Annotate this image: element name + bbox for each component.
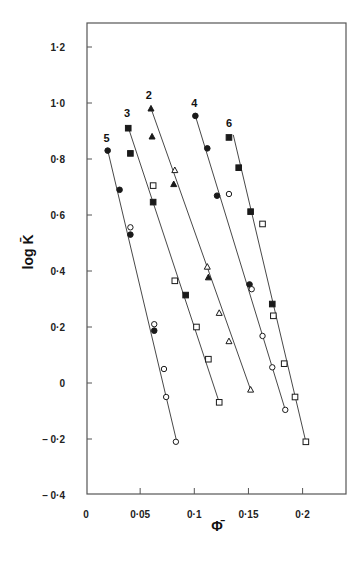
x-axis-ticks: 00·050·10·150·2 — [83, 488, 310, 520]
data-point-open-square — [216, 400, 222, 406]
series-label-4: 4 — [191, 97, 198, 109]
y-tick-label: – 0·2 — [42, 434, 65, 445]
data-point-open-circle — [173, 439, 178, 444]
x-tick-label: 0·05 — [130, 509, 150, 520]
data-point-filled-circle — [105, 148, 111, 154]
y-axis-title: log K̄ — [19, 235, 36, 270]
y-tick-label: 0·6 — [51, 210, 66, 221]
data-point-open-square — [172, 278, 178, 284]
data-point-filled-circle — [151, 328, 157, 334]
data-point-open-square — [150, 183, 156, 189]
y-tick-label: 0·2 — [51, 322, 66, 333]
data-point-filled-square — [269, 301, 275, 307]
data-point-open-square — [292, 394, 298, 400]
data-point-filled-circle — [193, 113, 199, 119]
data-point-filled-square — [183, 292, 189, 298]
data-point-filled-triangle — [148, 105, 154, 111]
data-point-open-triangle — [216, 310, 222, 316]
x-tick-label: 0·2 — [295, 509, 310, 520]
data-point-filled-square — [226, 135, 232, 141]
data-point-open-circle — [249, 287, 254, 292]
y-tick-label: 0·4 — [51, 266, 66, 277]
y-tick-label: 0 — [59, 378, 65, 389]
x-axis-title: Φ̄ — [211, 518, 225, 534]
data-point-filled-square — [125, 125, 131, 131]
data-point-open-circle — [270, 365, 275, 370]
data-point-filled-square — [150, 199, 156, 205]
data-point-open-circle — [163, 394, 168, 399]
data-point-open-triangle — [248, 387, 254, 393]
data-point-filled-circle — [214, 193, 220, 199]
series-label-2: 2 — [146, 89, 152, 101]
x-tick-label: 0·1 — [187, 509, 202, 520]
data-point-open-square — [271, 313, 277, 319]
data-point-open-circle — [161, 366, 166, 371]
series-labels: 53246 — [104, 89, 233, 144]
plot-frame — [87, 23, 346, 494]
data-point-open-circle — [226, 191, 231, 196]
series-label-3: 3 — [124, 107, 130, 119]
series-label-6: 6 — [226, 117, 232, 129]
data-point-open-square — [260, 221, 266, 227]
fit-lines — [108, 108, 306, 442]
data-point-filled-square — [128, 151, 134, 157]
data-point-open-triangle — [204, 264, 210, 270]
data-points — [105, 105, 309, 444]
series-label-5: 5 — [104, 132, 110, 144]
y-tick-label: 0·8 — [51, 154, 66, 165]
data-point-open-circle — [283, 407, 288, 412]
y-tick-label: 1·0 — [51, 98, 66, 109]
y-axis-ticks: 1·21·00·80·60·40·20– 0·2– 0·4 — [42, 42, 92, 501]
y-tick-label: 1·2 — [51, 42, 66, 53]
data-point-open-triangle — [226, 338, 232, 344]
data-point-open-square — [303, 439, 309, 445]
data-point-filled-circle — [128, 232, 134, 238]
data-point-filled-circle — [204, 146, 210, 152]
data-point-open-circle — [128, 225, 133, 230]
data-point-open-square — [206, 356, 212, 362]
x-tick-label: 0·15 — [238, 509, 258, 520]
data-point-open-square — [194, 324, 200, 330]
data-point-open-circle — [152, 322, 157, 327]
data-point-filled-triangle — [149, 133, 155, 139]
data-point-open-square — [281, 361, 287, 367]
data-point-open-circle — [260, 333, 265, 338]
scatter-chart: 1·21·00·80·60·40·20– 0·2– 0·4 00·050·10·… — [0, 0, 362, 567]
data-point-filled-square — [236, 165, 242, 171]
x-tick-label: 0 — [83, 509, 89, 520]
data-point-filled-square — [248, 209, 254, 215]
y-tick-label: – 0·4 — [42, 490, 65, 501]
data-point-filled-circle — [117, 187, 123, 193]
data-point-filled-triangle — [171, 181, 177, 187]
